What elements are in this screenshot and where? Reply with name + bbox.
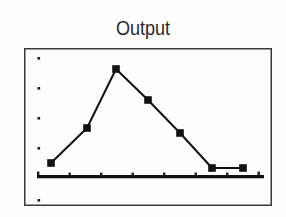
chart-screenshot: Output — [0, 0, 286, 217]
y-tick-dot — [38, 199, 41, 202]
data-point-marker — [176, 129, 184, 137]
plot-svg — [24, 48, 272, 206]
x-tick — [195, 173, 197, 176]
x-tick — [37, 172, 39, 176]
data-point-marker — [208, 164, 216, 172]
x-tick — [226, 173, 228, 176]
x-tick — [132, 173, 134, 176]
data-markers — [47, 65, 247, 172]
data-point-marker — [83, 124, 91, 132]
plot-frame — [25, 49, 272, 206]
data-point-marker — [239, 164, 247, 172]
data-line — [51, 69, 243, 168]
x-tick — [163, 173, 165, 176]
y-tick-dot — [38, 117, 41, 120]
y-tick-dot — [38, 87, 41, 90]
data-point-marker — [144, 96, 152, 104]
chart-title: Output — [20, 16, 266, 40]
x-tick — [69, 173, 71, 176]
x-tick — [100, 173, 102, 176]
y-axis-ticks — [38, 57, 41, 202]
x-axis-ticks — [37, 172, 260, 176]
plot-area — [24, 48, 272, 206]
data-point-marker — [112, 65, 120, 73]
x-tick — [258, 172, 260, 176]
y-tick-dot — [38, 147, 41, 150]
data-point-marker — [47, 159, 55, 167]
y-tick-dot — [38, 57, 41, 60]
